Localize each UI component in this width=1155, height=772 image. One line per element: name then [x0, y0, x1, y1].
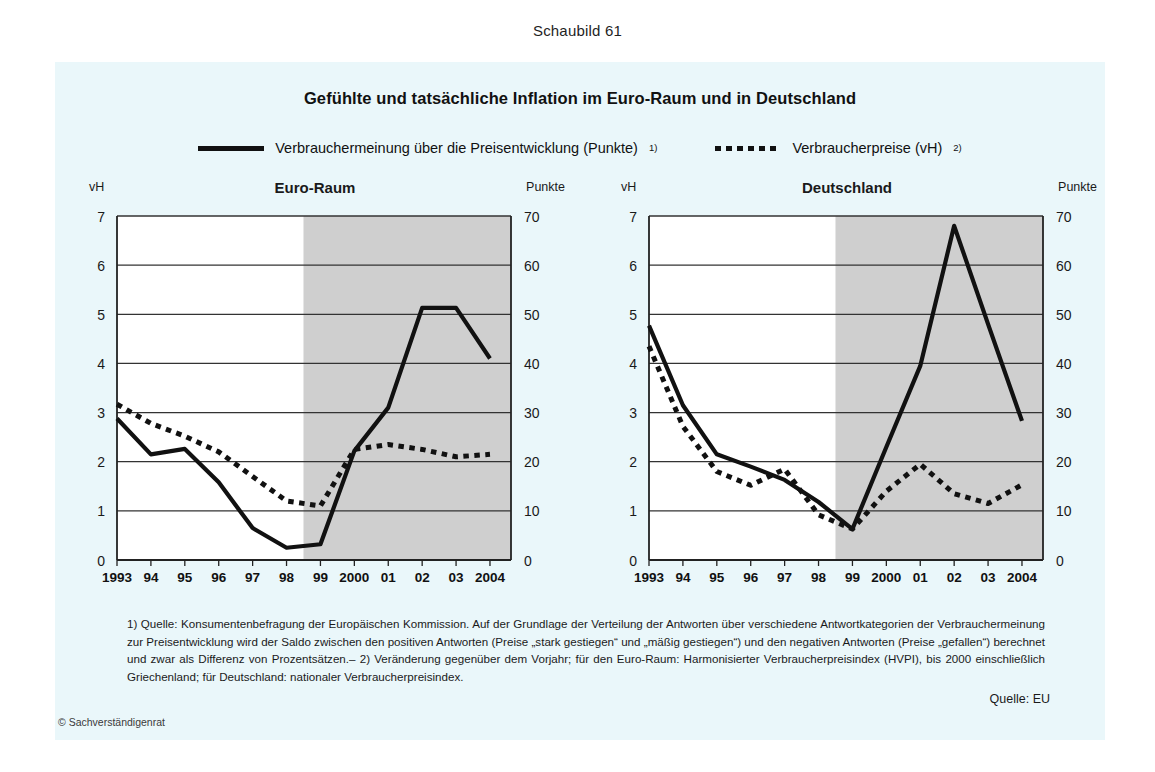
svg-text:2: 2 [97, 454, 105, 470]
legend-label-verbrauchermeinung: Verbrauchermeinung über die Preisentwick… [275, 140, 638, 156]
svg-text:94: 94 [143, 570, 159, 585]
right-axis-unit-euro: Punkte [526, 180, 565, 194]
figure-number: Schaubild 61 [0, 22, 1155, 39]
svg-text:5: 5 [97, 307, 105, 323]
svg-text:3: 3 [97, 405, 105, 421]
chart-euro-raum: vH Euro-Raum Punkte 01234567010203040506… [57, 180, 573, 600]
svg-text:30: 30 [524, 405, 540, 421]
svg-text:60: 60 [524, 258, 540, 274]
svg-text:7: 7 [97, 209, 105, 225]
svg-text:97: 97 [245, 570, 260, 585]
svg-text:03: 03 [449, 570, 465, 585]
svg-text:0: 0 [1056, 553, 1064, 569]
chart-subtitle-deutschland: Deutschland [589, 179, 1105, 196]
svg-text:96: 96 [743, 570, 759, 585]
svg-text:40: 40 [1056, 356, 1072, 372]
figure-panel: Gefühlte und tatsächliche Inflation im E… [55, 62, 1105, 740]
chart-deutschland: vH Deutschland Punkte 012345670102030405… [589, 180, 1105, 600]
svg-text:2: 2 [629, 454, 637, 470]
svg-text:96: 96 [211, 570, 227, 585]
svg-text:02: 02 [415, 570, 430, 585]
svg-text:97: 97 [777, 570, 792, 585]
charts-container: vH Euro-Raum Punkte 01234567010203040506… [55, 180, 1105, 600]
svg-text:0: 0 [629, 553, 637, 569]
plot-area-deutschland: 0123456701020304050607019939495969798992… [589, 202, 1105, 600]
footnotes: 1) Quelle: Konsumentenbefragung der Euro… [127, 615, 1045, 686]
svg-text:99: 99 [313, 570, 328, 585]
svg-text:2000: 2000 [339, 570, 369, 585]
svg-text:50: 50 [524, 307, 540, 323]
svg-text:0: 0 [524, 553, 532, 569]
svg-text:20: 20 [1056, 454, 1072, 470]
svg-text:1: 1 [629, 503, 637, 519]
svg-text:03: 03 [981, 570, 997, 585]
right-axis-unit-de: Punkte [1058, 180, 1097, 194]
svg-text:2004: 2004 [1007, 570, 1038, 585]
svg-text:5: 5 [629, 307, 637, 323]
svg-text:40: 40 [524, 356, 540, 372]
legend-item-verbraucherpreise: Verbraucherpreise (vH)2) [715, 140, 961, 156]
legend-item-verbrauchermeinung: Verbrauchermeinung über die Preisentwick… [198, 140, 657, 156]
svg-text:20: 20 [524, 454, 540, 470]
chart-title: Gefühlte und tatsächliche Inflation im E… [55, 89, 1105, 108]
dotted-line-swatch-icon [715, 146, 781, 151]
svg-text:3: 3 [629, 405, 637, 421]
svg-text:10: 10 [524, 503, 540, 519]
svg-text:98: 98 [279, 570, 295, 585]
chart-subtitle-euro: Euro-Raum [57, 179, 573, 196]
svg-text:98: 98 [811, 570, 827, 585]
svg-text:70: 70 [524, 209, 540, 225]
plot-area-euro-raum: 0123456701020304050607019939495969798992… [57, 202, 573, 600]
svg-text:01: 01 [381, 570, 397, 585]
svg-text:4: 4 [97, 356, 105, 372]
svg-text:94: 94 [675, 570, 691, 585]
svg-text:1993: 1993 [102, 570, 133, 585]
svg-text:70: 70 [1056, 209, 1072, 225]
svg-text:95: 95 [709, 570, 725, 585]
svg-text:2004: 2004 [475, 570, 506, 585]
chart-header-euro-raum: vH Euro-Raum Punkte [57, 180, 573, 202]
legend-label-verbraucherpreise: Verbraucherpreise (vH) [792, 140, 942, 156]
footnote-text: 1) Quelle: Konsumentenbefragung der Euro… [127, 615, 1045, 686]
svg-text:6: 6 [97, 258, 105, 274]
svg-text:7: 7 [629, 209, 637, 225]
svg-text:2000: 2000 [871, 570, 901, 585]
svg-text:60: 60 [1056, 258, 1072, 274]
svg-text:1: 1 [97, 503, 105, 519]
svg-text:30: 30 [1056, 405, 1072, 421]
svg-text:10: 10 [1056, 503, 1072, 519]
source-label: Quelle: EU [990, 692, 1050, 706]
svg-text:95: 95 [177, 570, 193, 585]
svg-text:6: 6 [629, 258, 637, 274]
svg-text:01: 01 [913, 570, 929, 585]
svg-text:0: 0 [97, 553, 105, 569]
chart-header-deutschland: vH Deutschland Punkte [589, 180, 1105, 202]
svg-text:02: 02 [947, 570, 962, 585]
svg-text:4: 4 [629, 356, 637, 372]
svg-text:50: 50 [1056, 307, 1072, 323]
svg-text:1993: 1993 [634, 570, 665, 585]
legend: Verbrauchermeinung über die Preisentwick… [55, 140, 1105, 156]
svg-text:99: 99 [845, 570, 860, 585]
solid-line-swatch-icon [198, 146, 264, 151]
copyright-notice: © Sachverständigenrat [58, 716, 165, 728]
